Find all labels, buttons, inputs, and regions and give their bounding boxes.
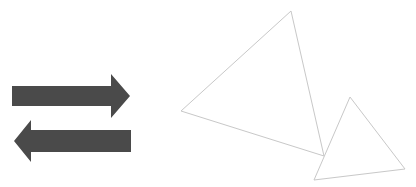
small-triangle [314, 97, 405, 180]
left-arrow-icon [14, 120, 131, 162]
right-arrow-icon [12, 74, 130, 118]
large-triangle [181, 11, 324, 156]
diagram-canvas [0, 0, 416, 187]
diagram-svg [0, 0, 416, 187]
